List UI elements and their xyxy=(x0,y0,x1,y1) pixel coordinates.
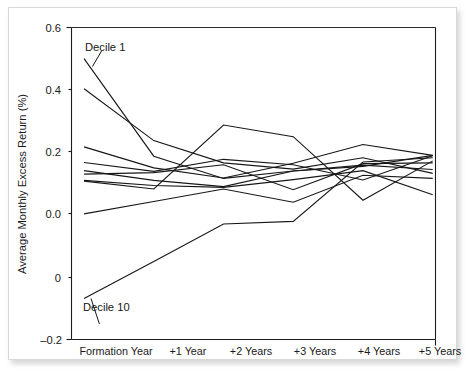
figure-root: 0.6 0.4 0.2 0.0 0 –0.2 Average Monthly E… xyxy=(0,0,473,377)
y-tick-label-2: 0.2 xyxy=(45,146,61,158)
x-tick-labels: Formation Year +1 Year +2 Years +3 Years… xyxy=(79,345,461,357)
x-tick-label-5: +5 Years xyxy=(419,345,462,357)
y-tick-marks xyxy=(67,28,72,340)
y-tick-label-0: 0.6 xyxy=(45,22,61,34)
series-line-9 xyxy=(84,175,433,214)
series-group xyxy=(84,59,433,299)
annotation-leaders xyxy=(91,51,102,324)
decile-10-label: Decile 10 xyxy=(83,301,130,313)
y-tick-label-5: –0.2 xyxy=(40,334,62,346)
line-chart: 0.6 0.4 0.2 0.0 0 –0.2 Average Monthly E… xyxy=(0,0,473,377)
y-tick-label-4: 0 xyxy=(55,272,61,284)
y-tick-labels: 0.6 0.4 0.2 0.0 0 –0.2 xyxy=(40,22,62,346)
annotation-leader-1 xyxy=(92,51,101,66)
y-axis-title: Average Monthly Excess Return (%) xyxy=(16,94,28,274)
x-tick-label-1: +1 Year xyxy=(170,345,207,357)
x-tick-label-0: Formation Year xyxy=(79,345,153,357)
y-tick-label-1: 0.4 xyxy=(45,84,61,96)
x-tick-label-4: +4 Years xyxy=(358,345,401,357)
decile-1-label: Decile 1 xyxy=(85,41,125,53)
y-tick-label-3: 0.0 xyxy=(45,208,61,220)
x-tick-label-3: +3 Years xyxy=(294,345,337,357)
x-tick-label-2: +2 Years xyxy=(230,345,273,357)
